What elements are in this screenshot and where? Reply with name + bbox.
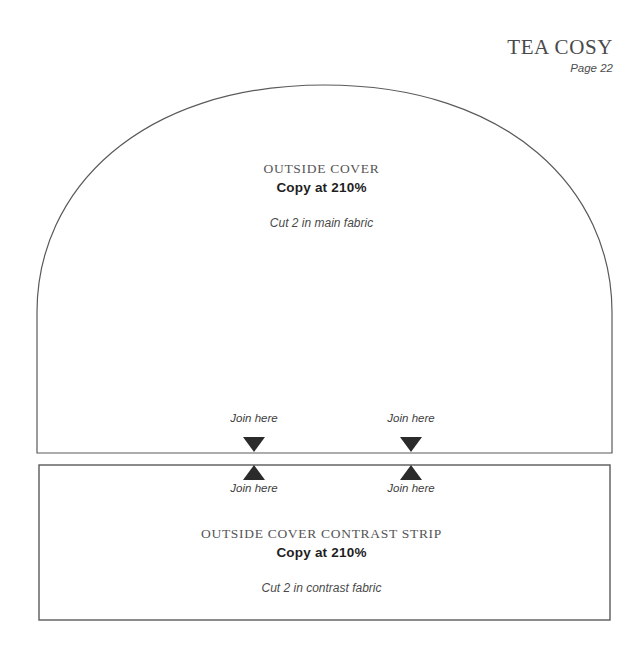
join-here-label: Join here [387,482,434,494]
outside-cover-outline [37,85,612,453]
outside-cover-label-block: OUTSIDE COVER Copy at 210% Cut 2 in main… [0,160,643,232]
join-triangle-down-icon [400,437,422,452]
outside-cover-instruction: Cut 2 in main fabric [0,214,643,232]
outside-cover-scale: Copy at 210% [0,178,643,198]
outside-cover-name: OUTSIDE COVER [0,160,643,178]
pattern-page: TEA COSY Page 22 OUTSIDE COVER Copy at 2… [0,0,643,664]
join-triangle-down-icon [243,437,265,452]
join-triangle-up-icon [243,465,265,480]
join-here-label: Join here [230,482,277,494]
join-here-label: Join here [230,412,277,424]
contrast-strip-label-block: OUTSIDE COVER CONTRAST STRIP Copy at 210… [0,525,643,597]
contrast-strip-scale: Copy at 210% [0,543,643,563]
join-here-label: Join here [387,412,434,424]
join-triangle-up-icon [400,465,422,480]
contrast-strip-name: OUTSIDE COVER CONTRAST STRIP [0,525,643,543]
contrast-strip-instruction: Cut 2 in contrast fabric [0,579,643,597]
